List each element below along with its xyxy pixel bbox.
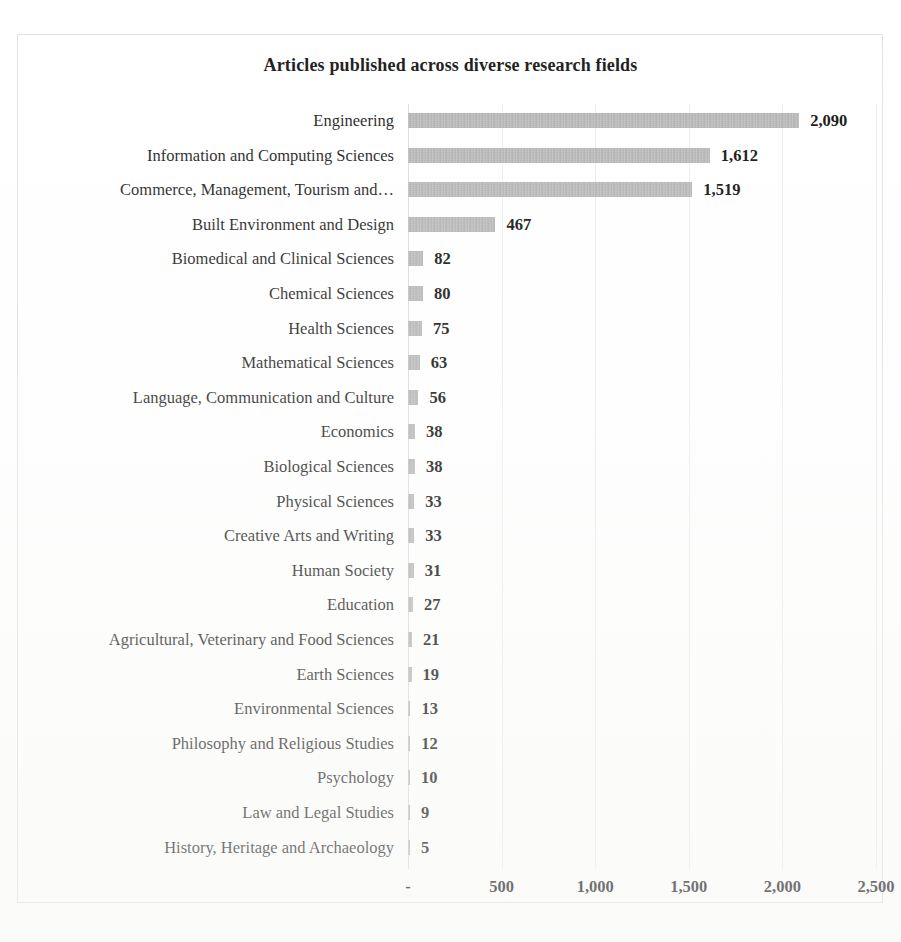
bar xyxy=(408,840,410,855)
bar xyxy=(408,597,413,612)
category-label: Psychology xyxy=(317,761,394,795)
bar-container xyxy=(408,658,412,692)
bar-row: Creative Arts and Writing33 xyxy=(0,519,901,553)
bar xyxy=(408,667,412,682)
value-label: 2,090 xyxy=(810,104,847,138)
page-caption-fragment xyxy=(300,925,880,941)
bar-container xyxy=(408,761,410,795)
bar-container xyxy=(408,554,414,588)
value-label: 33 xyxy=(425,485,442,519)
bar-row: Language, Communication and Culture56 xyxy=(0,381,901,415)
bar-row: Earth Sciences19 xyxy=(0,658,901,692)
x-tick-2500: 2,500 xyxy=(857,874,894,900)
value-label: 56 xyxy=(429,381,446,415)
bar-container xyxy=(408,346,420,380)
bar-container xyxy=(408,727,410,761)
bar-row: Chemical Sciences80 xyxy=(0,277,901,311)
bar xyxy=(408,113,799,128)
bar xyxy=(408,251,423,266)
bar xyxy=(408,148,710,163)
bar-container xyxy=(408,208,495,242)
bar xyxy=(408,563,414,578)
bar-container xyxy=(408,242,423,276)
category-label: Law and Legal Studies xyxy=(242,796,394,830)
category-label: Health Sciences xyxy=(288,312,394,346)
bar-container xyxy=(408,173,692,207)
bar-row: History, Heritage and Archaeology5 xyxy=(0,831,901,865)
value-label: 63 xyxy=(431,346,448,380)
bar-container xyxy=(408,415,415,449)
bar-row: Engineering2,090 xyxy=(0,104,901,138)
bar-container xyxy=(408,139,710,173)
value-label: 27 xyxy=(424,588,441,622)
category-label: Commerce, Management, Tourism and… xyxy=(120,173,394,207)
value-label: 38 xyxy=(426,450,443,484)
bar xyxy=(408,424,415,439)
value-label: 9 xyxy=(421,796,429,830)
bar-row: Built Environment and Design467 xyxy=(0,208,901,242)
x-axis-tick-labels: -5001,0001,5002,0002,500 xyxy=(0,874,901,900)
category-label: Agricultural, Veterinary and Food Scienc… xyxy=(109,623,394,657)
value-label: 12 xyxy=(421,727,438,761)
category-label: Information and Computing Sciences xyxy=(147,139,394,173)
value-label: 38 xyxy=(426,415,443,449)
category-label: Creative Arts and Writing xyxy=(224,519,394,553)
category-label: Language, Communication and Culture xyxy=(133,381,394,415)
value-label: 10 xyxy=(421,761,438,795)
x-tick-2000: 2,000 xyxy=(764,874,801,900)
category-label: History, Heritage and Archaeology xyxy=(164,831,394,865)
bar xyxy=(408,217,495,232)
value-label: 75 xyxy=(433,312,450,346)
bar-container xyxy=(408,519,414,553)
bar xyxy=(408,321,422,336)
bar-row: Economics38 xyxy=(0,415,901,449)
bar-container xyxy=(408,104,799,138)
bar-container xyxy=(408,831,410,865)
bar-row: Philosophy and Religious Studies12 xyxy=(0,727,901,761)
value-label: 80 xyxy=(434,277,451,311)
value-label: 1,519 xyxy=(703,173,740,207)
value-label: 1,612 xyxy=(721,139,758,173)
category-label: Education xyxy=(327,588,394,622)
x-tick-500: 500 xyxy=(489,874,514,900)
x-tick-1500: 1,500 xyxy=(670,874,707,900)
chart-title: Articles published across diverse resear… xyxy=(0,55,901,76)
bar-row: Physical Sciences33 xyxy=(0,485,901,519)
bar xyxy=(408,632,412,647)
bar-row: Mathematical Sciences63 xyxy=(0,346,901,380)
bar-container xyxy=(408,623,412,657)
bar-container xyxy=(408,485,414,519)
value-label: 19 xyxy=(423,658,440,692)
category-label: Philosophy and Religious Studies xyxy=(172,727,394,761)
category-label: Chemical Sciences xyxy=(269,277,394,311)
bar-container xyxy=(408,381,418,415)
bar-row: Human Society31 xyxy=(0,554,901,588)
value-label: 5 xyxy=(421,831,429,865)
bar-row: Law and Legal Studies9 xyxy=(0,796,901,830)
bar xyxy=(408,770,410,785)
category-label: Engineering xyxy=(313,104,394,138)
bar-row: Commerce, Management, Tourism and…1,519 xyxy=(0,173,901,207)
category-label: Human Society xyxy=(292,554,394,588)
bar xyxy=(408,182,692,197)
value-label: 13 xyxy=(421,692,438,726)
bar-row: Health Sciences75 xyxy=(0,312,901,346)
value-label: 31 xyxy=(425,554,442,588)
x-tick-1000: 1,000 xyxy=(577,874,614,900)
bar xyxy=(408,528,414,543)
category-label: Mathematical Sciences xyxy=(241,346,394,380)
bar xyxy=(408,286,423,301)
value-label: 467 xyxy=(506,208,531,242)
bar-row: Biological Sciences38 xyxy=(0,450,901,484)
category-label: Biological Sciences xyxy=(263,450,394,484)
bar xyxy=(408,736,410,751)
bar xyxy=(408,805,410,820)
bar-row: Environmental Sciences13 xyxy=(0,692,901,726)
bar-row: Biomedical and Clinical Sciences82 xyxy=(0,242,901,276)
bar-row: Psychology10 xyxy=(0,761,901,795)
category-label: Biomedical and Clinical Sciences xyxy=(172,242,394,276)
category-label: Earth Sciences xyxy=(296,658,394,692)
bar-container xyxy=(408,796,410,830)
category-label: Environmental Sciences xyxy=(234,692,394,726)
value-label: 21 xyxy=(423,623,440,657)
